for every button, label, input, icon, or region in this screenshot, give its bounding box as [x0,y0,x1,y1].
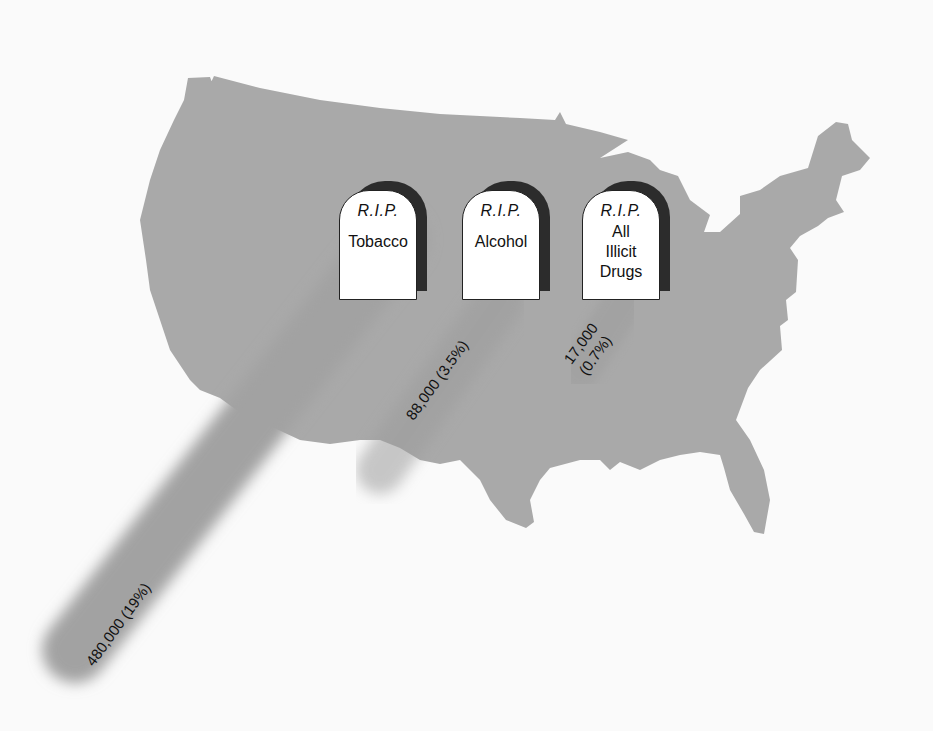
tombstone-tobacco: R.I.P. Tobacco [339,190,417,300]
tombstone-label-line-1: All [583,222,659,242]
tombstone-face: R.I.P. Alcohol [462,190,540,300]
epitaph-text: R.I.P. [583,202,659,220]
tombstone-label-line-3: Drugs [583,262,659,282]
tombstone-label: Tobacco [340,232,416,252]
diagram-canvas [0,0,933,731]
tombstone-face: R.I.P. All Illicit Drugs [582,190,660,300]
epitaph-text: R.I.P. [340,202,416,220]
tombstone-face: R.I.P. Tobacco [339,190,417,300]
tombstone-label: Alcohol [463,232,539,252]
epitaph-text: R.I.P. [463,202,539,220]
tombstone-label-line-2: Illicit [583,242,659,262]
tombstone-alcohol: R.I.P. Alcohol [462,190,540,300]
tombstone-illicit-drugs: R.I.P. All Illicit Drugs [582,190,660,300]
